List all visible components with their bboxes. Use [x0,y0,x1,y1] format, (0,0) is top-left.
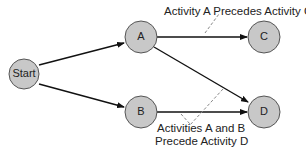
edge-a-d [154,47,248,102]
edge-start-b [39,84,124,107]
annotation-ab-precede-d-line1: Activities A and B [157,122,245,135]
edge-start-a [39,43,124,65]
node-d-label: D [254,105,274,118]
node-a-label: A [131,30,151,43]
node-c-label: C [254,30,274,43]
node-b-label: B [131,105,151,118]
leader-line-ab-d [181,89,223,125]
annotation-a-precedes-c: Activity A Precedes Activity C [164,5,306,18]
annotation-ab-precede-d-line2: Precede Activity D [155,135,248,148]
precedence-diagram: Start A B C D Activity A Precedes Activi… [0,0,306,154]
node-start-label: Start [8,67,40,80]
